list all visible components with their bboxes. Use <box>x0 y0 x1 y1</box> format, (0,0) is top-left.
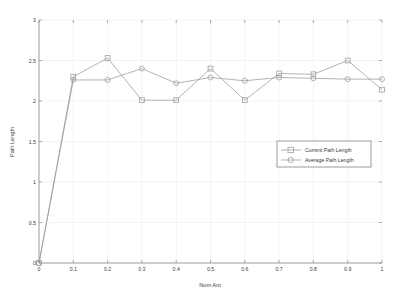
line-chart: 00.10.20.30.40.50.60.70.80.91 00.511.522… <box>0 0 407 298</box>
x-tick-label: 0.6 <box>241 266 248 272</box>
x-tick-label: 0.4 <box>173 266 180 272</box>
chart-legend: Current Path Length Average Path Length <box>277 141 371 167</box>
x-tick-label: 1 <box>381 266 384 272</box>
y-tick-label: 0 <box>33 260 36 266</box>
x-tick-label: 0.7 <box>275 266 282 272</box>
legend-label-average: Average Path Length <box>305 157 354 163</box>
x-tick-label: 0.5 <box>207 266 214 272</box>
x-tick-label: 0.9 <box>344 266 351 272</box>
x-tick-label: 0.3 <box>138 266 145 272</box>
x-tick-label: 0.1 <box>70 266 77 272</box>
y-tick-label: 2.5 <box>29 58 36 64</box>
legend-label-current: Current Path Length <box>305 147 352 153</box>
figure-canvas: 00.10.20.30.40.50.60.70.80.91 00.511.522… <box>0 0 407 298</box>
y-axis-title: Path Length <box>9 127 15 157</box>
x-tick-label: 0 <box>38 266 41 272</box>
y-tick-label: 2 <box>33 98 36 104</box>
legend-box <box>277 141 371 167</box>
legend-entry-average: Average Path Length <box>281 157 354 163</box>
y-tick-label: 1 <box>33 179 36 185</box>
x-tick-label: 0.2 <box>104 266 111 272</box>
x-tick-label: 0.8 <box>310 266 317 272</box>
y-tick-label: 1.5 <box>29 139 36 145</box>
y-tick-label: 3 <box>33 17 36 23</box>
y-tick-label: 0.5 <box>29 220 36 226</box>
x-axis-title: Num Ant <box>199 282 221 288</box>
